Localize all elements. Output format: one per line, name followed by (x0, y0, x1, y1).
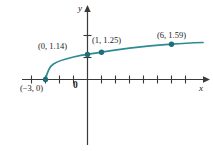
origin-label: 0 (73, 81, 78, 91)
data-point-marker (99, 50, 104, 55)
data-point-marker (85, 52, 90, 57)
function-curve (46, 43, 204, 80)
x-axis-arrow (203, 76, 210, 82)
data-point-marker (43, 77, 48, 82)
data-point-marker (169, 42, 174, 47)
point-label-0-114: (0, 1.14) (38, 42, 67, 51)
point-label-neg3-0: (−3, 0) (20, 84, 43, 93)
graph-figure: (−3, 0) (0, 1.14) (1, 1.25) (6, 1.59) 0 … (0, 0, 213, 151)
point-label-1-125: (1, 1.25) (92, 36, 121, 45)
y-axis-label: y (78, 4, 82, 13)
coordinate-plane (0, 0, 213, 151)
x-axis-label: x (199, 84, 203, 93)
y-axis-arrow (84, 5, 90, 12)
point-label-6-159: (6, 1.59) (157, 31, 186, 40)
